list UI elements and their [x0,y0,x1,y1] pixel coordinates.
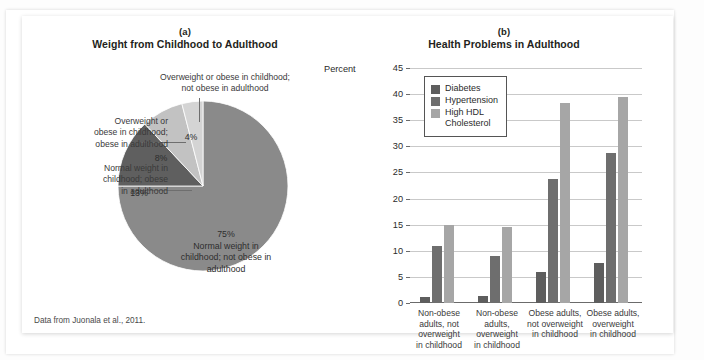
bar-diabetes [420,297,431,303]
figure-canvas: (a) Weight from Childhood to Adulthood O… [0,0,704,360]
y-axis-tick-label: 20 [393,194,403,204]
bar-high-hdl-cholesterol [560,103,571,303]
figure-source-note: Data from Juonala et al., 2011. [34,316,145,325]
callout-overweight-obese: Overweight or obese in childhood; obese … [38,116,168,150]
legend-item-diabetes: Diabetes [431,83,498,94]
pie-slice-label-13: 13% [122,188,156,200]
y-axis-tick-label: 25 [393,167,403,177]
y-axis-tick-label: 30 [393,141,403,151]
legend-label-high-hdl-cholesterol: High HDL Cholesterol [445,107,491,129]
pie-slice-label-75: 75% Normal weight in childhood; not obes… [150,229,302,275]
panel-b-letter: (b) [348,26,660,37]
panel-b-bar-chart: (b) Health Problems in Adulthood Percent… [348,20,674,333]
y-axis-title: Percent [324,64,356,74]
legend-swatch-diabetes [431,85,440,94]
bar-high-hdl-cholesterol [502,227,513,303]
legend-label-hypertension: Hypertension [445,95,498,106]
panel-b-title: Health Problems in Adulthood [348,38,660,50]
bar-high-hdl-cholesterol [618,97,629,303]
panel-a-pie-chart: (a) Weight from Childhood to Adulthood O… [22,20,348,333]
pie-slice-label-4: 4% [174,132,208,144]
y-axis-tick-label: 0 [398,298,403,308]
y-axis-tick-label: 10 [393,246,403,256]
bar-diabetes [594,263,605,303]
bar-plot-area: Diabetes Hypertension High HDL Cholester… [410,68,642,303]
y-axis-tick [406,303,410,304]
pie-plot-area: Overweight or obese in childhood; not ob… [22,20,348,310]
bar-diabetes [478,296,489,303]
bar-hypertension [432,246,443,303]
bar-high-hdl-cholesterol [444,225,455,303]
legend-label-diabetes: Diabetes [445,83,481,94]
leader-line-top [199,98,200,122]
bar-group: Obese adults, not overweight in childhoo… [526,68,584,303]
legend-swatch-hypertension [431,97,440,106]
bar-group: Obese adults, overweight in childhood [584,68,642,303]
x-axis-category-label: Obese adults, overweight in childhood [578,308,648,340]
y-axis-tick-label: 35 [393,115,403,125]
panel-b-header: (b) Health Problems in Adulthood [348,26,660,50]
pie-slice-label-8: 8% [146,153,176,165]
legend-swatch-high-hdl-cholesterol [431,109,440,118]
bar-diabetes [536,272,547,303]
y-axis-tick-label: 45 [393,63,403,73]
bar-hypertension [490,256,501,303]
legend-item-hypertension: Hypertension [431,95,498,106]
y-axis-tick-label: 15 [393,220,403,230]
y-axis-tick-label: 5 [398,272,403,282]
bar-hypertension [606,153,617,303]
bar-hypertension [548,179,559,303]
callout-overweight-not-obese: Overweight or obese in childhood; not ob… [130,72,320,95]
legend-item-high-hdl-cholesterol: High HDL Cholesterol [431,107,498,129]
y-axis-tick-label: 40 [393,89,403,99]
chart-legend: Diabetes Hypertension High HDL Cholester… [424,76,507,137]
